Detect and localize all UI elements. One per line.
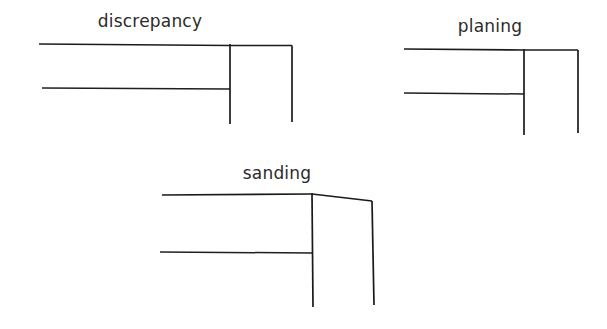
stroke-lower-long-horizontal (404, 93, 524, 94)
figure-label-planing: planing (458, 16, 522, 36)
figure-canvas: discrepancy planing sanding (0, 0, 607, 329)
figure-label-discrepancy: discrepancy (98, 11, 202, 31)
stroke-lower-long-horizontal (160, 252, 312, 253)
stroke-upper-long-horizontal (162, 194, 312, 195)
stroke-inner-vertical (312, 193, 313, 307)
stroke-upper-long-horizontal (404, 49, 524, 50)
figure-label-sanding: sanding (243, 163, 312, 183)
stroke-lower-long-horizontal (42, 88, 230, 89)
